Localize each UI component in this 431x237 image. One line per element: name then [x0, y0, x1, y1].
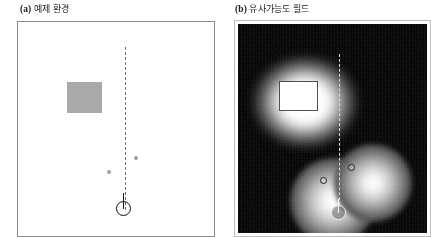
landmark-ring: [348, 164, 355, 171]
obstacle-rectangle: [67, 82, 102, 113]
likelihood-field-panel: [234, 20, 431, 237]
panel-a-caption: (a) 예제 환경: [20, 3, 69, 15]
robot-heading-line: [338, 199, 339, 213]
landmark-ring: [320, 177, 327, 184]
landmark-point: [134, 156, 138, 160]
panel-b-caption: (b) 유사가능도 필드: [235, 3, 309, 15]
panel-b-caption-tag: (b): [235, 4, 247, 14]
sensor-beam-dashed-line: [339, 54, 340, 220]
example-environment-panel: [17, 21, 215, 237]
panel-a-caption-text: 예제 환경: [34, 4, 69, 14]
panel-a-caption-tag: (a): [20, 4, 31, 14]
obstacle-rectangle: [279, 81, 318, 111]
landmark-point: [107, 170, 111, 174]
panel-b-caption-text: 유사가능도 필드: [249, 4, 309, 14]
robot-heading-line: [123, 193, 124, 209]
robot-pose-marker: [116, 201, 135, 220]
sensor-beam-dashed-line: [125, 47, 126, 210]
robot-pose-marker: [331, 205, 350, 224]
likelihood-field-heatmap: [238, 24, 427, 233]
